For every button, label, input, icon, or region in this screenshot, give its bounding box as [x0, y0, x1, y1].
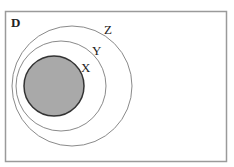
set-z-label: Z: [104, 22, 112, 37]
set-x-circle: [24, 56, 84, 116]
set-x-label: X: [81, 60, 91, 75]
universe-label: D: [11, 15, 20, 30]
set-y-label: Y: [92, 43, 102, 58]
venn-diagram: D Z Y X: [0, 0, 234, 167]
